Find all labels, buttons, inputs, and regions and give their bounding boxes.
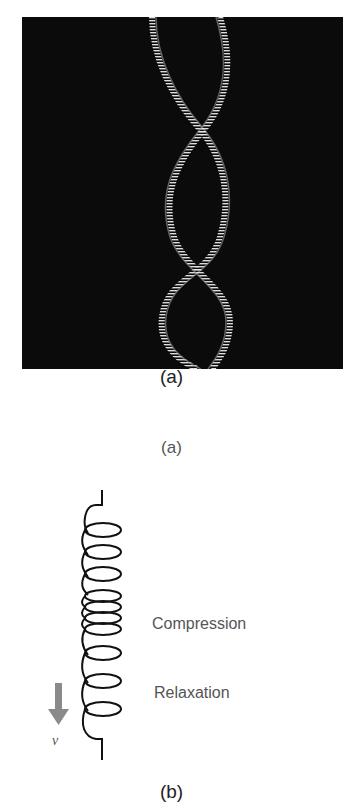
double-helix-graphic — [22, 17, 343, 369]
velocity-label: v — [52, 733, 58, 749]
compression-label: Compression — [152, 615, 246, 633]
caption-a-primary: (a) — [0, 366, 343, 388]
relaxation-label: Relaxation — [154, 684, 230, 702]
spring-diagram — [40, 485, 140, 765]
caption-a-secondary: (a) — [0, 438, 343, 458]
spring-coils — [82, 523, 121, 760]
velocity-arrow-icon — [48, 683, 69, 725]
helix-photograph — [22, 17, 343, 369]
caption-b: (b) — [0, 781, 343, 803]
